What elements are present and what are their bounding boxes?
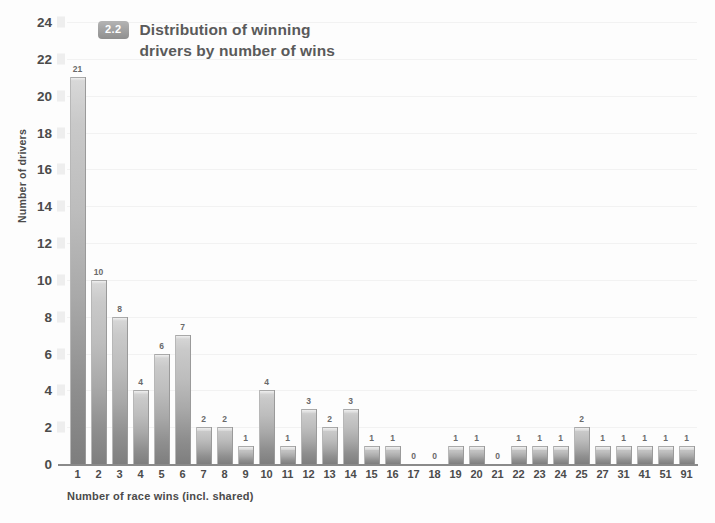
bar-slot: 1 <box>656 22 676 464</box>
x-axis-title: Number of race wins (incl. shared) <box>67 490 254 502</box>
bar[interactable] <box>574 427 590 464</box>
bar[interactable] <box>448 446 464 464</box>
y-axis-tick-label: 6 <box>26 346 52 361</box>
bar-value-label: 1 <box>278 433 298 443</box>
bar-value-label: 2 <box>572 414 592 424</box>
bar[interactable] <box>70 77 86 464</box>
bar[interactable] <box>637 446 653 464</box>
bar-value-label: 0 <box>404 451 424 461</box>
x-axis-tick-label: 10 <box>257 468 277 480</box>
bar-value-label: 3 <box>341 396 361 406</box>
x-axis-tick-label: 91 <box>677 468 697 480</box>
bar-slot: 1 <box>383 22 403 464</box>
bar-value-label: 0 <box>425 451 445 461</box>
bar[interactable] <box>301 409 317 464</box>
bar[interactable] <box>385 446 401 464</box>
y-axis-tick-label: 18 <box>26 125 52 140</box>
bar[interactable] <box>175 335 191 464</box>
bar[interactable] <box>679 446 695 464</box>
x-axis-tick-label: 18 <box>425 468 445 480</box>
bar-value-label: 1 <box>446 433 466 443</box>
bar[interactable] <box>238 446 254 464</box>
bar-slot: 3 <box>341 22 361 464</box>
x-axis-tick-label: 6 <box>173 468 193 480</box>
y-axis-tick-mark <box>57 422 65 433</box>
bar-slot: 1 <box>635 22 655 464</box>
bar-value-label: 1 <box>551 433 571 443</box>
x-axis-tick-label: 31 <box>614 468 634 480</box>
bar-highlight-cap <box>155 354 169 358</box>
bar-slot: 2 <box>572 22 592 464</box>
bar-highlight-cap <box>260 390 274 394</box>
bar[interactable] <box>595 446 611 464</box>
bar-value-label: 1 <box>509 433 529 443</box>
bar-highlight-cap <box>239 446 253 450</box>
bar-value-label: 0 <box>488 451 508 461</box>
bar-highlight-cap <box>575 427 589 431</box>
y-axis-tick-mark <box>57 53 65 64</box>
y-axis-tick-label: 4 <box>26 383 52 398</box>
y-axis-tick-mark <box>57 90 65 101</box>
bar[interactable] <box>553 446 569 464</box>
x-axis-tick-label: 4 <box>131 468 151 480</box>
x-axis-tick-label: 13 <box>320 468 340 480</box>
bar-slot: 10 <box>89 22 109 464</box>
bar-slot: 8 <box>110 22 130 464</box>
x-axis-tick-label: 20 <box>467 468 487 480</box>
bar[interactable] <box>91 280 107 464</box>
y-axis-tick-label: 10 <box>26 272 52 287</box>
bar-highlight-cap <box>470 446 484 450</box>
bar[interactable] <box>217 427 233 464</box>
bar-highlight-cap <box>302 409 316 413</box>
bar[interactable] <box>469 446 485 464</box>
x-axis-tick-label: 9 <box>236 468 256 480</box>
bar[interactable] <box>343 409 359 464</box>
bar-slot: 0 <box>488 22 508 464</box>
chart-title-block: 2.2 Distribution of winning drivers by n… <box>98 19 335 61</box>
bar-value-label: 4 <box>131 377 151 387</box>
bar[interactable] <box>259 390 275 464</box>
bar[interactable] <box>154 354 170 465</box>
bar-value-label: 10 <box>89 267 109 277</box>
x-axis-tick-label: 19 <box>446 468 466 480</box>
bar-slot: 2 <box>194 22 214 464</box>
x-axis-tick-label: 22 <box>509 468 529 480</box>
bar[interactable] <box>364 446 380 464</box>
bar-value-label: 4 <box>257 377 277 387</box>
bar-highlight-cap <box>92 280 106 284</box>
bar-highlight-cap <box>113 317 127 321</box>
bar-highlight-cap <box>638 446 652 450</box>
bar[interactable] <box>616 446 632 464</box>
bar-highlight-cap <box>449 446 463 450</box>
plot-area: 21108467221413231100110111211111 <box>67 22 697 464</box>
bar[interactable] <box>133 390 149 464</box>
x-axis-tick-label: 25 <box>572 468 592 480</box>
chart-title-line-1: Distribution of winning <box>140 19 335 40</box>
x-axis-tick-label: 14 <box>341 468 361 480</box>
bar[interactable] <box>532 446 548 464</box>
x-axis-tick-label: 11 <box>278 468 298 480</box>
bar-highlight-cap <box>680 446 694 450</box>
bar[interactable] <box>196 427 212 464</box>
bar[interactable] <box>280 446 296 464</box>
x-axis-tick-label: 16 <box>383 468 403 480</box>
y-axis-tick-mark <box>57 164 65 175</box>
x-axis-tick-label: 8 <box>215 468 235 480</box>
x-axis-tick-label: 1 <box>68 468 88 480</box>
bar-highlight-cap <box>176 335 190 339</box>
bar-slot: 1 <box>551 22 571 464</box>
bar-highlight-cap <box>344 409 358 413</box>
bar[interactable] <box>112 317 128 464</box>
y-axis-tick-mark <box>57 348 65 359</box>
bar[interactable] <box>322 427 338 464</box>
bar-value-label: 7 <box>173 322 193 332</box>
bar-slot: 1 <box>467 22 487 464</box>
bar-slot: 7 <box>173 22 193 464</box>
bar[interactable] <box>658 446 674 464</box>
bar[interactable] <box>511 446 527 464</box>
chart-container: Number of drivers 024681012141618202224 … <box>0 0 715 523</box>
bar-value-label: 1 <box>530 433 550 443</box>
bar-slot: 1 <box>677 22 697 464</box>
x-axis-tick-label: 2 <box>89 468 109 480</box>
bar-slot: 1 <box>530 22 550 464</box>
